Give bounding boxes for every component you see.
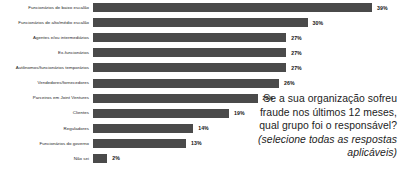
chart-question-annotation: Se a sua organização sofreu fraude nos ú… — [250, 92, 397, 160]
bar-value-label: 27% — [291, 65, 302, 71]
bar-category-label: Funcionários de alto/médio escalão — [0, 20, 93, 25]
bar-row: Autônomos/funcionários temporários27% — [0, 62, 403, 74]
bar-track: 27% — [93, 47, 403, 59]
bar — [93, 48, 286, 57]
bar-category-label: Não sei — [0, 156, 93, 161]
bar — [93, 33, 286, 42]
bar-row: Funcionários de alto/médio escalão30% — [0, 17, 403, 29]
bar — [93, 79, 279, 88]
bar — [93, 3, 372, 12]
bar-row: Vendedores/fornecedores26% — [0, 77, 403, 89]
question-text: Se a sua organização sofreu fraude nos ú… — [259, 93, 397, 131]
bar-value-label: 19% — [234, 110, 245, 116]
bar-value-label: 2% — [112, 155, 120, 161]
bar-row: Ex-funcionários27% — [0, 47, 403, 59]
bar — [93, 94, 258, 103]
bar-row: Funcionários de baixo escalão39% — [0, 2, 403, 14]
bar — [93, 63, 286, 72]
bar-value-label: 39% — [377, 5, 388, 11]
bar-category-label: Parceiros em Joint Ventures — [0, 95, 93, 100]
bar-category-label: Reguladores — [0, 126, 93, 131]
bar-category-label: Vendedores/fornecedores — [0, 80, 93, 85]
bar-category-label: Funcionários do governo — [0, 141, 93, 146]
bar-category-label: Clientes — [0, 110, 93, 115]
bar-value-label: 13% — [191, 140, 202, 146]
bar-row: Agentes e/ou intermediários27% — [0, 32, 403, 44]
bar-track: 30% — [93, 17, 403, 29]
bar-track: 27% — [93, 62, 403, 74]
bar-category-label: Ex-funcionários — [0, 50, 93, 55]
bar — [93, 124, 193, 133]
bar-category-label: Funcionários de baixo escalão — [0, 5, 93, 10]
bar-value-label: 14% — [198, 125, 209, 131]
bar-category-label: Agentes e/ou intermediários — [0, 35, 93, 40]
bar-value-label: 27% — [291, 35, 302, 41]
bar-track: 39% — [93, 2, 403, 14]
bar — [93, 18, 308, 27]
bar — [93, 139, 186, 148]
bar-chart-figure: Funcionários de baixo escalão39%Funcioná… — [0, 0, 403, 185]
question-instruction: (selecione todas as respostas aplicáveis… — [258, 134, 397, 159]
bar-track: 26% — [93, 77, 403, 89]
bar — [93, 109, 229, 118]
bar-category-label: Autônomos/funcionários temporários — [0, 65, 93, 70]
bar — [93, 154, 107, 163]
bar-value-label: 30% — [313, 20, 324, 26]
bar-value-label: 27% — [291, 50, 302, 56]
bar-track: 27% — [93, 32, 403, 44]
bar-value-label: 26% — [284, 80, 295, 86]
